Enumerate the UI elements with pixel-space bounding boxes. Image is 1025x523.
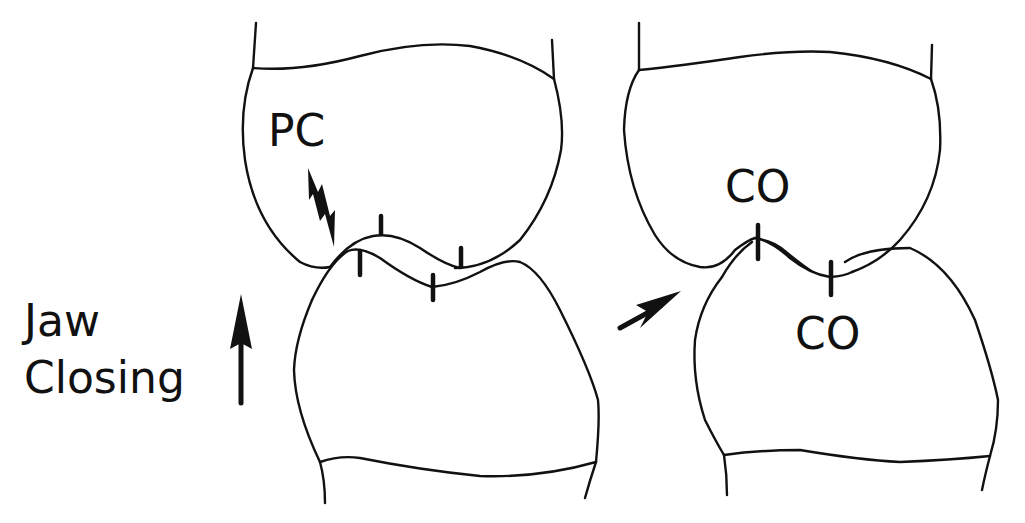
jaw-label-line1: Jaw [21, 295, 100, 346]
lower-tooth-left [294, 250, 599, 503]
co-label-upper: CO [725, 161, 790, 212]
up-arrow-icon [230, 294, 252, 403]
diagonal-arrow-icon [620, 291, 681, 328]
jaw-closing-label: Jaw Closing [21, 294, 252, 403]
lower-tooth-right [694, 242, 998, 495]
left-panel: PC [243, 23, 599, 503]
premature-contact-label: PC [268, 105, 325, 156]
lightning-arrow-icon [308, 168, 335, 247]
occlusion-diagram: PC Jaw Closing [0, 0, 1025, 523]
upper-tooth-right [624, 23, 940, 277]
co-label-lower: CO [795, 308, 860, 359]
jaw-label-line2: Closing [24, 352, 185, 403]
right-panel: CO CO [624, 23, 998, 495]
